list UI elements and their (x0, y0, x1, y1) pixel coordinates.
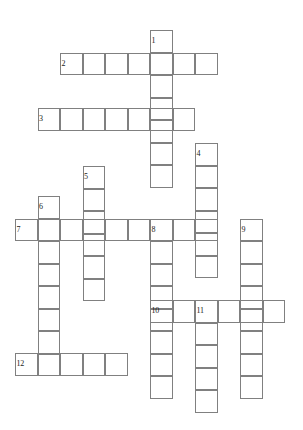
crossword-cell[interactable] (240, 241, 263, 264)
crossword-cell[interactable] (195, 166, 218, 189)
crossword-cell[interactable] (263, 300, 286, 323)
crossword-cell[interactable] (83, 219, 106, 242)
crossword-cell[interactable] (150, 53, 173, 76)
clue-number-5: 5 (84, 173, 88, 181)
crossword-cell[interactable] (195, 53, 218, 76)
crossword-cell[interactable] (150, 264, 173, 287)
crossword-cell[interactable] (240, 354, 263, 377)
crossword-cell[interactable] (150, 376, 173, 399)
crossword-cell[interactable] (128, 53, 151, 76)
crossword-cell[interactable] (240, 300, 263, 323)
crossword-cell[interactable] (38, 241, 61, 264)
crossword-cell[interactable] (195, 345, 218, 368)
crossword-cell[interactable] (150, 354, 173, 377)
crossword-cell[interactable] (150, 108, 173, 131)
crossword-cell[interactable] (173, 53, 196, 76)
crossword-cell[interactable] (60, 219, 83, 242)
clue-number-8: 8 (152, 226, 156, 234)
crossword-cell[interactable] (195, 390, 218, 413)
clue-number-3: 3 (39, 115, 43, 123)
crossword-cell[interactable] (83, 256, 106, 279)
crossword-cell[interactable] (195, 256, 218, 279)
crossword-cell[interactable] (195, 368, 218, 391)
crossword-cell[interactable] (195, 323, 218, 346)
crossword-grid[interactable]: 123456789101112 (0, 0, 303, 430)
clue-number-2: 2 (62, 60, 66, 68)
crossword-cell[interactable] (128, 108, 151, 131)
clue-number-6: 6 (39, 203, 43, 211)
crossword-cell[interactable] (150, 241, 173, 264)
crossword-cell[interactable] (105, 219, 128, 242)
crossword-cell[interactable] (83, 353, 106, 376)
crossword-cell[interactable] (240, 331, 263, 354)
crossword-cell[interactable] (38, 353, 61, 376)
crossword-puzzle: 123456789101112 (0, 0, 303, 430)
crossword-cell[interactable] (83, 279, 106, 302)
crossword-cell[interactable] (173, 300, 196, 323)
clue-number-10: 10 (152, 307, 160, 315)
crossword-cell[interactable] (150, 143, 173, 166)
crossword-cell[interactable] (83, 189, 106, 212)
crossword-cell[interactable] (38, 331, 61, 354)
crossword-cell[interactable] (150, 165, 173, 188)
crossword-cell[interactable] (105, 53, 128, 76)
clue-number-7: 7 (17, 226, 21, 234)
crossword-cell[interactable] (83, 53, 106, 76)
crossword-cell[interactable] (105, 353, 128, 376)
crossword-cell[interactable] (60, 108, 83, 131)
crossword-cell[interactable] (173, 108, 196, 131)
crossword-cell[interactable] (38, 264, 61, 287)
crossword-cell[interactable] (218, 300, 241, 323)
crossword-cell[interactable] (38, 286, 61, 309)
crossword-cell[interactable] (38, 309, 61, 332)
crossword-cell[interactable] (240, 264, 263, 287)
crossword-cell[interactable] (195, 219, 218, 242)
crossword-cell[interactable] (128, 219, 151, 242)
crossword-cell[interactable] (195, 188, 218, 211)
crossword-cell[interactable] (38, 219, 61, 242)
crossword-cell[interactable] (105, 108, 128, 131)
clue-number-9: 9 (242, 226, 246, 234)
crossword-cell[interactable] (150, 75, 173, 98)
clue-number-12: 12 (17, 360, 25, 368)
crossword-cell[interactable] (83, 108, 106, 131)
clue-number-4: 4 (197, 150, 201, 158)
crossword-cell[interactable] (173, 219, 196, 242)
crossword-cell[interactable] (240, 376, 263, 399)
crossword-cell[interactable] (60, 353, 83, 376)
clue-number-1: 1 (152, 37, 156, 45)
clue-number-11: 11 (197, 307, 204, 315)
crossword-cell[interactable] (150, 331, 173, 354)
